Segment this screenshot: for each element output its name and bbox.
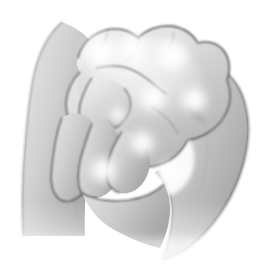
pressure-point-knuckle-right (153, 36, 191, 74)
pressure-point-knuckle-left (80, 32, 120, 72)
hand-illustration: Grayscale line drawing of two hands: a c… (0, 0, 275, 278)
bottom-fade-veil (0, 238, 275, 278)
pressure-point-lower-right (156, 160, 180, 184)
illustration-canvas (0, 0, 275, 278)
pressure-point-center (127, 128, 157, 158)
top-fade-veil (0, 0, 275, 14)
pressure-point-back-of-hand (137, 82, 169, 114)
pressure-point-upper-right (178, 84, 210, 116)
pressure-point-knuckle-mid (116, 31, 150, 65)
pressure-point-thumb-web (108, 105, 128, 125)
pressure-point-finger (87, 154, 119, 186)
